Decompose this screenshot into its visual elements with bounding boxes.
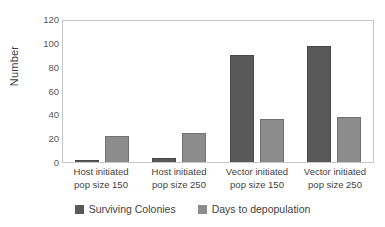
plot-area xyxy=(62,20,374,163)
x-axis-category-label: Host initiatedpop size 250 xyxy=(140,166,218,191)
y-axis-tick-label: 80 xyxy=(28,63,59,73)
bar[interactable] xyxy=(307,46,331,162)
x-axis-category-label-line: pop size 150 xyxy=(219,179,295,192)
x-axis-category-label-line: pop size 250 xyxy=(141,179,217,192)
bar[interactable] xyxy=(260,119,284,162)
x-axis-category-label-line: Host initiated xyxy=(63,166,139,179)
x-axis-category-label-line: Vector initiated xyxy=(297,166,373,179)
bar[interactable] xyxy=(105,136,129,162)
x-axis-category-label-line: Host initiated xyxy=(141,166,217,179)
y-axis-tick-label: 40 xyxy=(28,111,59,121)
legend-swatch-icon xyxy=(75,205,84,214)
legend-swatch-icon xyxy=(198,205,207,214)
x-axis-category-label-line: Vector initiated xyxy=(219,166,295,179)
y-axis-tick-label: 120 xyxy=(28,15,59,25)
chart-legend: Surviving ColoniesDays to depopulation xyxy=(0,203,385,215)
y-axis-tick-label: 60 xyxy=(28,87,59,97)
bar[interactable] xyxy=(230,55,254,162)
bar[interactable] xyxy=(75,160,99,162)
bar-group xyxy=(141,21,219,162)
bar-group xyxy=(218,21,296,162)
x-axis-category-label-line: pop size 250 xyxy=(297,179,373,192)
x-axis-category-label: Vector initiatedpop size 250 xyxy=(296,166,374,191)
legend-label: Days to depopulation xyxy=(212,203,311,215)
bar[interactable] xyxy=(152,158,176,162)
legend-label: Surviving Colonies xyxy=(89,203,176,215)
x-axis-category-label: Vector initiatedpop size 150 xyxy=(218,166,296,191)
x-axis-category-label: Host initiatedpop size 150 xyxy=(62,166,140,191)
y-axis-tick-label: 0 xyxy=(28,158,59,168)
y-axis-title: Number xyxy=(8,26,20,106)
y-axis-tick-label: 20 xyxy=(28,134,59,144)
bar-groups xyxy=(63,21,373,162)
legend-item[interactable]: Days to depopulation xyxy=(198,203,311,215)
bar[interactable] xyxy=(182,133,206,162)
bar-group xyxy=(296,21,374,162)
bar[interactable] xyxy=(337,117,361,162)
y-axis-tick-labels: 020406080100120 xyxy=(28,14,59,163)
y-axis-tick-label: 100 xyxy=(28,39,59,49)
legend-item[interactable]: Surviving Colonies xyxy=(75,203,176,215)
bar-chart: Number 020406080100120 Host initiatedpop… xyxy=(0,0,385,227)
x-axis-category-label-line: pop size 150 xyxy=(63,179,139,192)
bar-group xyxy=(63,21,141,162)
x-axis-category-labels: Host initiatedpop size 150Host initiated… xyxy=(62,166,374,191)
